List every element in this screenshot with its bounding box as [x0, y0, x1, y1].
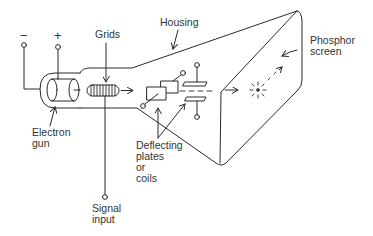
signal-input [103, 96, 108, 199]
phosphor-label-line2: screen [310, 45, 342, 57]
positive-terminal-symbol: + [54, 28, 62, 43]
crt-diagram: − + [0, 0, 373, 236]
electron-gun [47, 78, 80, 101]
deflecting-coils [141, 71, 186, 109]
negative-wire [24, 48, 40, 90]
signal-input-label-line2: input [92, 213, 115, 225]
deflecting-label-line4: coils [136, 172, 157, 184]
electron-gun-leader-arrow [50, 107, 55, 126]
housing-leader-arrow [173, 30, 178, 49]
beam-spot [225, 67, 282, 98]
positive-terminal-icon [56, 45, 61, 50]
housing-label: Housing [160, 16, 199, 28]
spot-icon [256, 88, 260, 92]
deflect-leader-arrow-2 [158, 104, 185, 138]
negative-terminal-symbol: − [20, 28, 28, 43]
negative-terminal-icon [22, 43, 27, 48]
power-terminals: − + [20, 28, 62, 89]
phosphor-leader-arrow [282, 50, 297, 56]
grids-label: Grids [95, 28, 120, 40]
electron-gun-label-line2: gun [32, 137, 50, 149]
grid-coil-icon [87, 85, 133, 96]
signal-terminal-icon [103, 195, 108, 200]
